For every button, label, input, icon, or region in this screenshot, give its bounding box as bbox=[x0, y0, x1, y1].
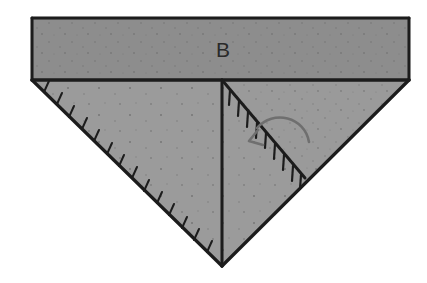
label-b: B bbox=[216, 38, 231, 61]
hatch-tick bbox=[292, 166, 293, 181]
hatch-tick bbox=[274, 144, 275, 159]
hatch-tick bbox=[229, 90, 230, 105]
hatch-tick bbox=[265, 133, 266, 148]
hatch-tick bbox=[300, 175, 301, 189]
hatch-tick bbox=[283, 155, 284, 170]
hatch-tick bbox=[238, 101, 239, 116]
fold-diagram-svg: B bbox=[0, 0, 427, 283]
figure-canvas: B bbox=[0, 0, 427, 283]
hatch-tick bbox=[247, 112, 248, 127]
